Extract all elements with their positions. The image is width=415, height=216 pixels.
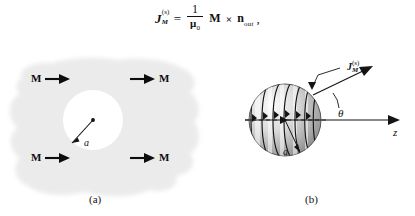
mu-subscript: 0 (197, 24, 201, 32)
equation-lhs-subscript: M (162, 18, 168, 26)
panel-b-caption: (b) (305, 193, 318, 205)
fraction-numerator: 1 (192, 3, 198, 16)
m-label-lower-right: M (159, 151, 169, 163)
magnetization-vector-symbol: M (209, 11, 221, 26)
m-label-upper-right: M (159, 72, 169, 84)
equation-lhs-symbol: J M (s) (155, 11, 162, 27)
surface-current-indices: (s)M (352, 62, 361, 74)
surface-current-subscript: M (352, 66, 358, 74)
m-label-lower-left: M (31, 151, 41, 163)
equation-fraction: 1 μ0 (187, 3, 203, 32)
equation-equals-sign: = (174, 11, 182, 27)
normal-subscript: out (244, 19, 254, 27)
m-label-upper-left: M (31, 72, 41, 84)
z-axis-label: z (393, 126, 397, 138)
sphere-radius-label: a (283, 146, 288, 157)
cross-product-operator: × (224, 13, 234, 25)
fraction-denominator: μ0 (190, 17, 200, 32)
panel-b-drawing (200, 48, 415, 208)
outward-normal-term: nout (237, 10, 253, 28)
equation-trailing-comma: , (257, 11, 260, 27)
magnetized-sphere-figure: J M (s) = 1 μ0 M × nout, (0, 0, 415, 216)
surface-current-label: J(s)M (347, 61, 361, 74)
equation-surface-current-density: J M (s) = 1 μ0 M × nout, (0, 4, 415, 33)
surface-current-leader-line (308, 68, 340, 90)
equation-lhs-superscript: (s) (162, 8, 170, 16)
theta-angle-label: θ (338, 107, 343, 119)
equation-row: J M (s) = 1 μ0 M × nout, (155, 4, 260, 33)
panel-a-caption: (a) (89, 193, 101, 205)
cavity-radius-label: a (84, 137, 89, 148)
radial-direction-arrow (313, 66, 373, 95)
theta-angle-arc (333, 93, 339, 108)
